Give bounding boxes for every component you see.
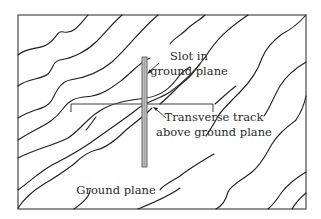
contour-line xyxy=(18,15,122,86)
contour-line xyxy=(18,58,150,140)
slot-label-line1: Slot in xyxy=(170,49,208,63)
contour-line xyxy=(18,15,88,55)
contour-line xyxy=(264,62,306,116)
contour-line xyxy=(170,15,205,44)
slot-label-line2: ground plane xyxy=(150,64,228,78)
ground-plane-diagram: Slot in ground plane Transverse track ab… xyxy=(0,0,321,219)
contour-line xyxy=(268,172,306,209)
ground-plane-label: Ground plane xyxy=(76,183,156,197)
contour-line xyxy=(18,15,248,190)
track-label-line2: above ground plane xyxy=(156,125,272,139)
contour-line xyxy=(215,86,236,104)
contour-line xyxy=(160,154,214,190)
track-label-line1: Transverse track xyxy=(165,110,265,124)
contour-line xyxy=(292,193,306,209)
contour-line xyxy=(86,117,96,130)
